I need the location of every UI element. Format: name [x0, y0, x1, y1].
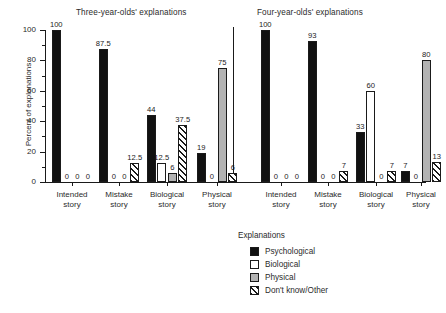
legend-swatch-bio	[250, 260, 259, 269]
legend-items: PsychologicalBiologicalPhysicalDon't kno…	[228, 245, 378, 297]
x-tick	[119, 182, 120, 186]
legend-item: Don't know/Other	[250, 284, 378, 297]
y-tick-label-60: 60	[6, 86, 36, 95]
bar-value-label: 87.5	[93, 40, 113, 48]
y-tick-label-20: 20	[6, 147, 36, 156]
legend-swatch-psych	[250, 247, 259, 256]
bar-value-label: 6	[223, 164, 243, 172]
bar-group: 4412.5637.5	[147, 30, 188, 182]
bar-group: 336007	[356, 30, 397, 182]
legend-swatch-phys	[250, 273, 259, 282]
bar-psych	[261, 30, 270, 182]
group-label: Biologicalstory	[139, 190, 195, 210]
bar-group: 100000	[52, 30, 93, 182]
legend-label: Physical	[265, 273, 296, 282]
bar-dk	[178, 125, 187, 182]
bar-value-label: 44	[141, 106, 161, 114]
bar-dk	[130, 163, 139, 182]
legend-item: Biological	[250, 258, 378, 271]
y-tick-0	[40, 182, 45, 183]
bar-bio	[366, 91, 375, 182]
bar-psych	[356, 132, 365, 182]
bar-value-label: 0	[78, 173, 98, 181]
bar-value-label: 13	[427, 153, 446, 161]
legend-item: Psychological	[250, 245, 378, 258]
bar-dk	[228, 173, 237, 182]
bar-value-label: 7	[395, 162, 415, 170]
x-tick	[281, 182, 282, 186]
bar-dk	[339, 171, 348, 182]
legend-title: Explanations	[238, 231, 378, 240]
legend-label: Don't know/Other	[265, 286, 328, 295]
bar-value-label: 12.5	[125, 154, 145, 162]
bar-group: 708013	[401, 30, 442, 182]
bar-psych	[99, 49, 108, 182]
bar-dk	[387, 171, 396, 182]
x-tick	[167, 182, 168, 186]
bar-psych	[308, 41, 317, 182]
y-tick-label-100: 100	[6, 25, 36, 34]
bar-value-label: 80	[416, 51, 436, 59]
legend-label: Psychological	[265, 247, 315, 256]
x-tick	[376, 182, 377, 186]
legend-swatch-dk	[250, 286, 259, 295]
bar-phys	[168, 173, 177, 182]
bar-value-label: 0	[287, 173, 307, 181]
legend-item: Physical	[250, 271, 378, 284]
bar-psych	[52, 30, 61, 182]
bar-dk	[432, 162, 441, 182]
x-tick	[421, 182, 422, 186]
bar-value-label: 37.5	[173, 116, 193, 124]
panel-title-four-year-olds: Four-year-olds' explanations	[257, 8, 363, 17]
x-tick	[72, 182, 73, 186]
y-tick-label-0: 0	[6, 177, 36, 186]
x-tick	[328, 182, 329, 186]
x-axis-line	[45, 182, 426, 183]
bar-value-label: 100	[255, 21, 275, 29]
bar-psych	[147, 115, 156, 182]
bar-group: 87.50012.5	[99, 30, 140, 182]
legend: Explanations PsychologicalBiologicalPhys…	[228, 231, 378, 297]
bar-value-label: 75	[212, 59, 232, 67]
group-label: Physicalstory	[189, 190, 245, 210]
plot-area: 10000087.50012.54412.5637.51907561000009…	[45, 30, 426, 182]
bar-phys	[422, 60, 431, 182]
bar-value-label: 60	[361, 82, 381, 90]
bar-value-label: 93	[302, 32, 322, 40]
legend-label: Biological	[265, 260, 300, 269]
y-axis-label: Percent of explanations	[24, 20, 33, 190]
x-tick	[217, 182, 218, 186]
y-tick-label-40: 40	[6, 116, 36, 125]
y-tick-label-80: 80	[6, 55, 36, 64]
panel-title-three-year-olds: Three-year-olds' explanations	[76, 8, 187, 17]
bar-value-label: 7	[334, 162, 354, 170]
group-label: Physicalstory	[393, 190, 446, 210]
bar-group: 93007	[308, 30, 349, 182]
bar-value-label: 12.5	[152, 154, 172, 162]
bar-group: 190756	[197, 30, 238, 182]
bar-value-label: 19	[191, 144, 211, 152]
bar-value-label: 100	[46, 21, 66, 29]
bar-group: 100000	[261, 30, 302, 182]
